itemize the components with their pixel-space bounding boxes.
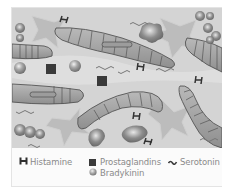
legend-item-histamine: Histamine	[19, 157, 72, 167]
illustration	[12, 8, 222, 148]
legend-item-serotonin: Serotonin	[168, 157, 220, 167]
squiggle-icon	[168, 157, 178, 167]
legend-label: Prostaglandins	[100, 157, 161, 167]
legend-label: Serotonin	[180, 157, 220, 167]
sphere-icon	[89, 168, 97, 178]
legend: Histamine Prostaglandins Serotonin Brady…	[12, 148, 222, 186]
square-icon	[89, 159, 96, 166]
illustration-svg	[12, 8, 222, 148]
histamine-H-icon	[19, 157, 28, 167]
legend-item-prostaglandins: Prostaglandins	[89, 157, 161, 167]
legend-label: Histamine	[30, 157, 72, 167]
legend-item-bradykinin: Bradykinin	[89, 168, 144, 178]
legend-label: Bradykinin	[100, 168, 144, 178]
